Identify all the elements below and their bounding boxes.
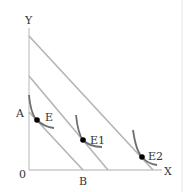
point-e1-label: E1	[90, 134, 105, 147]
point-e1-dot	[80, 137, 86, 143]
point-e-label: E	[45, 111, 53, 124]
point-e2-dot	[139, 154, 145, 160]
intercept-a-label: A	[15, 107, 25, 120]
x-axis-label: X	[164, 165, 172, 178]
diagram-canvas: Y X 0 A B E E1 E2	[0, 0, 185, 192]
intercept-b-label: B	[79, 175, 87, 188]
point-e-dot	[34, 117, 40, 123]
point-e2-label: E2	[148, 150, 163, 163]
y-axis-label: Y	[24, 14, 33, 27]
origin-label: 0	[19, 168, 26, 181]
